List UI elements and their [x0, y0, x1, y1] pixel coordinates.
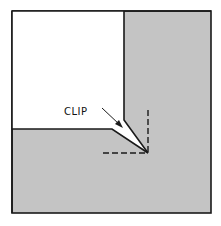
clip-label: CLIP — [64, 106, 88, 117]
diagram-canvas: CLIP — [0, 0, 221, 226]
